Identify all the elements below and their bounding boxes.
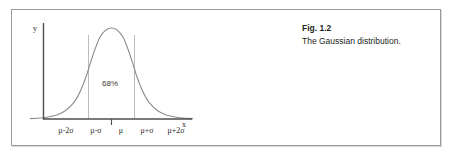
- area-annotation-68-percent: 68%: [102, 80, 118, 88]
- gaussian-plot-svg: [12, 10, 252, 147]
- tick-label-mu-plus-2sigma: μ+2σ: [167, 127, 184, 135]
- y-axis-label: y: [33, 25, 37, 33]
- caption-text: The Gaussian distribution.: [302, 35, 432, 48]
- gaussian-curve: [30, 28, 193, 119]
- tick-label-mu: μ: [119, 127, 123, 135]
- gaussian-plot: y x 68% μ-2σ μ-σ μ μ+σ μ+2σ: [12, 10, 252, 147]
- tick-label-mu-plus-sigma: μ+σ: [140, 127, 153, 135]
- tick-label-mu-minus-2sigma: μ-2σ: [58, 127, 73, 135]
- tick-label-mu-minus-sigma: μ-σ: [90, 127, 101, 135]
- figure-root: y x 68% μ-2σ μ-σ μ μ+σ μ+2σ Fig. 1.2 The…: [0, 0, 451, 165]
- caption-number: Fig. 1.2: [302, 22, 432, 35]
- figure-caption: Fig. 1.2 The Gaussian distribution.: [302, 22, 432, 47]
- figure-frame: y x 68% μ-2σ μ-σ μ μ+σ μ+2σ Fig. 1.2 The…: [11, 9, 441, 146]
